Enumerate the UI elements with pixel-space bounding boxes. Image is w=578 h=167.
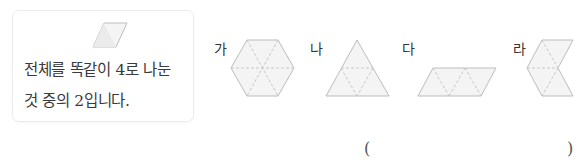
answer-close-paren: ) xyxy=(567,139,573,158)
answer-field[interactable] xyxy=(380,136,560,158)
hexagon-shape-icon[interactable] xyxy=(231,40,294,96)
chevron-shape-icon[interactable] xyxy=(527,40,573,96)
triangle-shape-icon[interactable] xyxy=(326,40,389,96)
answer-open-paren: ( xyxy=(364,139,370,158)
parallelogram-shape-icon[interactable] xyxy=(418,68,496,96)
